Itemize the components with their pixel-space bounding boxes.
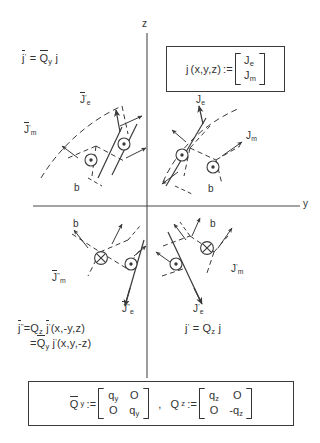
matrix-qy: qy O O qy (98, 388, 149, 419)
formula-bl-line-2: =Qy j'(x,y,-z) (30, 337, 91, 352)
z-axis-label: z (142, 18, 147, 29)
marker-dot-out-ul-1 (85, 154, 97, 166)
upper-right-glyph (162, 106, 242, 194)
formula-bottom-right: j' = Qz j (185, 322, 221, 336)
formula-bl-line-1: j"=Qz j'(x,-y,z) (18, 322, 85, 337)
matrix-definition-box: Qy:= qy O O qy , (28, 381, 294, 426)
marker-dot-out-ur-2 (207, 161, 219, 173)
formula-tl-operand: j (56, 52, 59, 64)
matrix-qz-row-2: O -qz (208, 404, 243, 419)
label-ur-b: b (208, 183, 214, 194)
b-arc-ll (72, 234, 100, 252)
bracket-right (246, 388, 252, 419)
definition-box: j(x,y,z):= Je Jm (166, 46, 285, 92)
marker-dot-out-lr (170, 258, 182, 270)
def-assign: := (223, 63, 233, 75)
label-ur-electric: Je (196, 94, 205, 106)
b-arc-ul (41, 106, 122, 178)
formula-tl-equals: = (30, 52, 37, 64)
marker-dot-out-ul-2 (118, 138, 130, 150)
matrix-1-group: Qy:= qy O O qy (70, 388, 150, 419)
label-ll-b: b (73, 218, 79, 229)
formula-tl-op-sub: y (48, 57, 52, 66)
formula-tl-lhs-base: j (22, 52, 25, 64)
formula-tl-op-base: Q (40, 52, 49, 64)
def-row-2: Jm (244, 69, 256, 84)
label-lr-electric: J'e (193, 302, 204, 315)
label-ll-electric: J"e (122, 302, 134, 315)
lower-right-glyph (156, 218, 232, 304)
label-ul-b: b (74, 182, 80, 193)
matrix-qy-row-2: O qy (107, 404, 140, 419)
matrix-qz-row-1: qz O (208, 389, 243, 404)
label-ul-magnetic: J'm (24, 123, 37, 136)
bracket-right (259, 53, 265, 84)
matrix-separator: , (153, 398, 166, 410)
matrix-qy-row-1: qy O (107, 389, 140, 404)
matrix-2-group: Qz:= qz O O -qz (171, 388, 253, 419)
formula-top-left: j' = Qy j (22, 52, 58, 66)
matrix-qz: qz O O -qz (199, 388, 252, 419)
marker-cross-in-ll (95, 252, 108, 265)
bracket-right (143, 388, 149, 419)
def-lhs: j (186, 63, 189, 75)
figure-canvas: z y j' = Qy j j(x,y,z):= Je Jm J'e J'm (0, 0, 320, 443)
label-ul-electric: J'e (80, 93, 91, 106)
label-ll-magnetic: J"m (52, 271, 66, 284)
label-ur-magnetic: Jm (246, 130, 257, 142)
marker-cross-in-lr (201, 242, 214, 255)
def-column-vector: Je Jm (235, 53, 265, 84)
marker-dot-out-ll (125, 258, 137, 270)
upper-left-glyph (41, 106, 146, 186)
label-lr-magnetic: J'm (231, 262, 244, 275)
def-args: (x,y,z) (191, 63, 222, 75)
marker-dot-out-ur-1 (176, 149, 188, 161)
label-lr-b: b (210, 218, 216, 229)
def-row-1: Je (244, 54, 256, 69)
y-axis-label: y (303, 198, 308, 209)
formula-bottom-left: j"=Qz j'(x,-y,z) =Qy j'(x,y,-z) (18, 322, 91, 352)
